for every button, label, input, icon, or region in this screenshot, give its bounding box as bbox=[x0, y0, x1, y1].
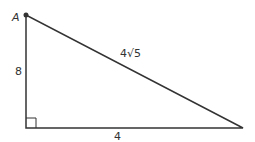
vertex-a-label: A bbox=[11, 11, 20, 24]
vertex-a-point bbox=[24, 13, 29, 18]
triangle bbox=[26, 15, 243, 128]
right-angle-marker bbox=[26, 118, 36, 128]
vertical-leg-label: 8 bbox=[15, 65, 22, 78]
hypotenuse-label: 4√5 bbox=[120, 47, 141, 60]
horizontal-leg-label: 4 bbox=[114, 130, 121, 142]
triangle-diagram: A 8 4√5 4 bbox=[0, 0, 255, 142]
